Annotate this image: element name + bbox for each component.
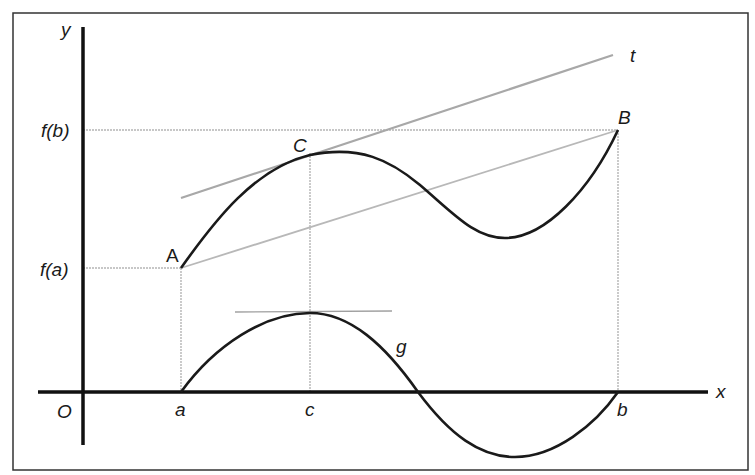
x-axis-label: x [715,381,727,402]
x-tick-a-label: a [175,399,186,420]
y-tick-fa-label: f(a) [40,259,69,280]
x-tick-c-label: c [305,399,315,420]
origin-label: O [57,401,72,422]
guide-lines [83,130,618,392]
tangent-t-label: t [630,45,636,66]
point-c-label: C [293,135,307,156]
y-tick-fb-label: f(b) [41,120,70,141]
curve-g [181,313,618,457]
figure-frame [13,13,748,470]
point-b-label: B [618,107,631,128]
mean-value-theorem-diagram: y x O f(b) f(a) a c b A C B t g [0,0,755,475]
point-a-label: A [166,245,179,266]
curve-g-label: g [396,336,407,357]
tangent-line-t [181,55,613,198]
x-tick-b-label: b [617,399,628,420]
secant-line-ab [181,130,618,268]
y-axis-label: y [59,19,72,40]
